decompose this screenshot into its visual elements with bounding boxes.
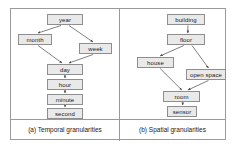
node-second[interactable]: second	[47, 108, 83, 119]
node-minute[interactable]: minute	[47, 94, 83, 105]
node-label: minute	[56, 97, 75, 103]
node-label: floor	[180, 37, 192, 43]
node-label: month	[26, 37, 43, 43]
node-house[interactable]: house	[137, 57, 174, 68]
node-day[interactable]: day	[47, 64, 83, 75]
node-label: hour	[59, 82, 71, 88]
node-hour[interactable]: hour	[47, 79, 83, 90]
node-label: house	[147, 60, 164, 66]
panel-temporal-granularities: year month week day hour minute second	[11, 9, 119, 119]
node-week[interactable]: week	[79, 43, 112, 54]
node-month[interactable]: month	[18, 34, 52, 45]
figure-container: year month week day hour minute second	[10, 8, 226, 140]
node-label: second	[55, 111, 75, 117]
node-label: sensor	[173, 109, 192, 115]
node-floor[interactable]: floor	[167, 34, 205, 45]
node-label: year	[59, 17, 71, 23]
node-label: building	[175, 17, 196, 23]
node-label: day	[60, 67, 70, 73]
caption-spatial: (b) Spatial granularities	[120, 120, 225, 140]
node-label: room	[174, 94, 188, 100]
node-year[interactable]: year	[47, 14, 83, 25]
node-building[interactable]: building	[167, 14, 205, 25]
caption-temporal: (a) Temporal granularities	[11, 120, 119, 140]
panel-spatial-granularities: building floor house open space room sen…	[120, 9, 228, 119]
node-open-space[interactable]: open space	[186, 69, 226, 80]
node-label: open space	[190, 72, 222, 78]
node-room[interactable]: room	[163, 91, 200, 102]
node-sensor[interactable]: sensor	[167, 106, 197, 117]
node-label: week	[88, 46, 102, 52]
